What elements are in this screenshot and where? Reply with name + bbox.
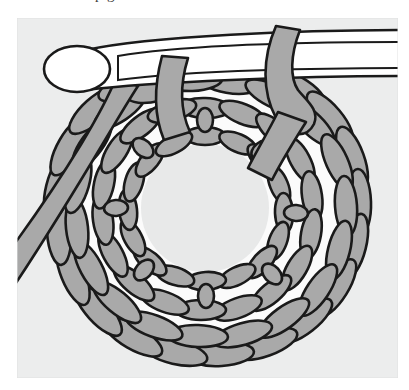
crochet-illustration — [0, 0, 409, 390]
figure-root: p g — [0, 0, 409, 390]
hook-head — [44, 46, 110, 92]
